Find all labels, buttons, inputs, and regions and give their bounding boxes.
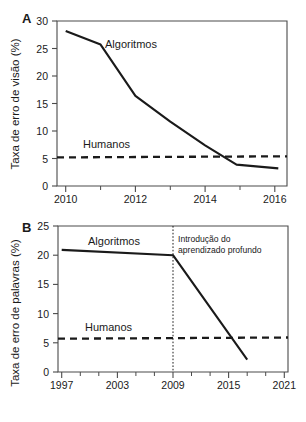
- panel-a-x-ticks: [66, 186, 275, 192]
- panel-b-y-ticks: [53, 226, 58, 372]
- panel-b-algorithms-label: Algoritmos: [88, 235, 140, 247]
- panel-a-y-ticks: [52, 21, 57, 186]
- panel-b-ytick-20: 20: [37, 249, 49, 261]
- panel-b-xtick-2003: 2003: [106, 379, 130, 391]
- panel-b-xtick-2009: 2009: [161, 379, 185, 391]
- panel-a-ytick-5: 5: [42, 153, 48, 165]
- panel-b-ytick-0: 0: [43, 366, 49, 378]
- panel-b-annotation-line2: aprendizado profundo: [178, 245, 262, 255]
- panel-a-xtick-2016: 2016: [263, 193, 287, 205]
- panel-a-x-tick-labels: 2010 2012 2014 2016: [54, 193, 287, 205]
- chart-panel-a: A Taxa de erro de visão (%) 0 5 10 15 2: [0, 0, 306, 208]
- panel-b-ytick-5: 5: [43, 337, 49, 349]
- panel-b-x-ticks: [62, 372, 285, 378]
- panel-b-y-tick-labels: 0 5 10 15 20 25: [37, 220, 49, 378]
- panel-b-x-tick-labels: 1997 2003 2009 2015 2021: [50, 379, 296, 391]
- panel-a-ytick-30: 30: [36, 15, 48, 27]
- figure-root: A Taxa de erro de visão (%) 0 5 10 15 2: [0, 0, 306, 422]
- panel-a-y-tick-labels: 0 5 10 15 20 25 30: [36, 15, 48, 192]
- panel-a-letter: A: [22, 11, 32, 26]
- panel-a-ytick-0: 0: [42, 180, 48, 192]
- panel-b-svg: B Taxa de erro de palavras (%) 0 5 10 15…: [0, 205, 306, 422]
- panel-a-ytick-10: 10: [36, 125, 48, 137]
- panel-b-y-axis-title: Taxa de erro de palavras (%): [9, 239, 21, 387]
- panel-a-ytick-25: 25: [36, 43, 48, 55]
- panel-b-ytick-25: 25: [37, 220, 49, 232]
- panel-a-ytick-20: 20: [36, 70, 48, 82]
- panel-a-algorithms-label: Algoritmos: [105, 38, 157, 50]
- panel-b-humans-line: [58, 338, 288, 339]
- chart-panel-b: B Taxa de erro de palavras (%) 0 5 10 15…: [0, 205, 306, 422]
- panel-b-xtick-2015: 2015: [217, 379, 241, 391]
- panel-a-humans-label: Humanos: [83, 138, 131, 150]
- panel-a-y-axis-title: Taxa de erro de visão (%): [9, 38, 21, 169]
- panel-b-annotation-line1: Introdução do: [178, 234, 231, 244]
- panel-a-svg: A Taxa de erro de visão (%) 0 5 10 15 2: [0, 0, 306, 208]
- panel-b-humans-label: Humanos: [85, 321, 133, 333]
- panel-b-xtick-2021: 2021: [273, 379, 297, 391]
- panel-b-algorithms-line: [62, 250, 248, 360]
- panel-b-ytick-15: 15: [37, 278, 49, 290]
- panel-b-xtick-1997: 1997: [50, 379, 74, 391]
- panel-a-ytick-15: 15: [36, 98, 48, 110]
- panel-a-xtick-2012: 2012: [124, 193, 148, 205]
- panel-a-xtick-2014: 2014: [193, 193, 217, 205]
- panel-a-plot-frame: [57, 21, 287, 186]
- panel-a-xtick-2010: 2010: [54, 193, 78, 205]
- panel-b-ytick-10: 10: [37, 308, 49, 320]
- panel-b-letter: B: [22, 220, 31, 235]
- panel-a-humans-line: [57, 156, 287, 157]
